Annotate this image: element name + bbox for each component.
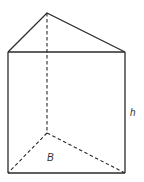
hidden-base-left-edge [8,133,47,173]
triangular-prism-diagram: h B [0,0,144,182]
height-label: h [130,107,136,118]
base-label: B [47,152,54,163]
top-face-edges [8,13,125,52]
hidden-base-right-edge [47,133,125,173]
